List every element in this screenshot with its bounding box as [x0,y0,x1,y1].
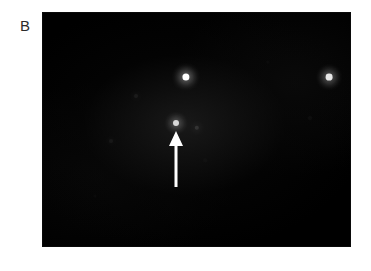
faint-spot-lower-center [203,158,207,162]
bright-spot-right [326,74,333,81]
micrograph-background [43,13,350,246]
bright-spot-upper-center [182,73,189,80]
micrograph-image [43,13,350,246]
bright-spot-center [173,120,179,126]
panel-label: B [20,18,30,33]
faint-spot-lower-left [93,194,96,197]
faint-spot-upper-left [134,94,138,98]
faint-spot-right-of-center [195,126,199,130]
arrow-indicator [43,13,350,246]
faint-spot-left [109,139,113,143]
figure-panel: B [0,0,371,271]
faint-spot-far-right [308,116,312,120]
arrow-shape [169,131,183,187]
faint-spot-upper-right [266,60,269,63]
